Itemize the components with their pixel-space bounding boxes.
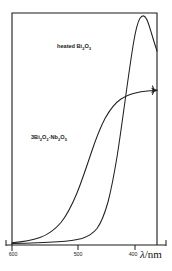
annotation1-prefix: heated Bi <box>57 43 83 49</box>
annotation1-sub2: 3 <box>89 46 92 51</box>
x-tick-label-600: 600 <box>9 251 18 257</box>
x-axis-unit: /nm <box>145 248 163 260</box>
annotation2-sub4: 5 <box>65 137 68 142</box>
curve-heated-bi2o3 <box>12 16 157 244</box>
annotation-3bi2o3-nb2o5: 3Bi2O3·Nb2O5 <box>31 134 68 142</box>
spectral-plot-figure: 600 500 400 λ/nm heated Bi2O3 3Bi2O3·Nb2… <box>0 0 172 271</box>
x-axis-title: λ/nm <box>139 248 162 260</box>
curve-3bi2o3-nb2o5 <box>12 90 154 242</box>
x-tick-label-500: 500 <box>74 251 83 257</box>
annotation-heated-bi2o3: heated Bi2O3 <box>57 43 92 51</box>
plot-canvas: 600 500 400 λ/nm heated Bi2O3 3Bi2O3·Nb2… <box>0 0 172 271</box>
x-tick-label-400: 400 <box>129 251 138 257</box>
